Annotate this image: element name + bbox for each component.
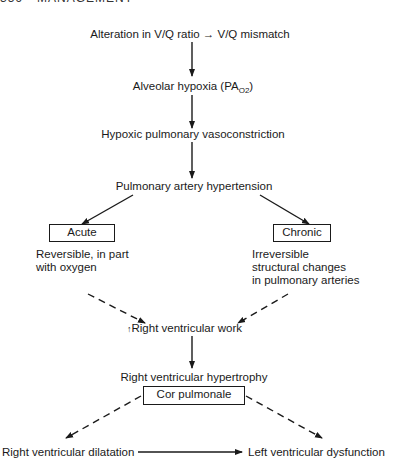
acute-note: Reversible, in part with oxygen xyxy=(36,248,129,274)
node-chronic: Chronic xyxy=(273,224,331,242)
node-vq-mismatch: Alteration in V/Q ratio → V/Q mismatch xyxy=(90,28,289,41)
node-pulmonary-hypertension: Pulmonary artery hypertension xyxy=(116,180,273,193)
node-vasoconstriction: Hypoxic pulmonary vasoconstriction xyxy=(101,128,284,141)
node-lv-dysfunction: Left ventricular dysfunction xyxy=(248,446,385,459)
chronic-note: Irreversible structural changes in pulmo… xyxy=(252,248,359,287)
arrow-right-icon: → xyxy=(203,28,215,40)
node-alveolar-hypoxia: Alveolar hypoxia (PAO2) xyxy=(133,80,253,97)
node-rv-work: ↑Right ventricular work xyxy=(127,322,242,336)
node-acute: Acute xyxy=(49,224,115,242)
node-rv-hypertrophy: Right ventricular hypertrophy xyxy=(120,371,267,384)
node-rv-dilatation: Right ventricular dilatation xyxy=(2,446,134,459)
node-cor-pulmonale: Cor pulmonale xyxy=(143,386,245,405)
